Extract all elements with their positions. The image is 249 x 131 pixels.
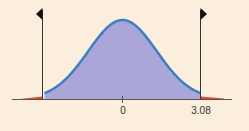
right-arrow-icon [201, 8, 208, 20]
center-area [45, 20, 201, 99]
tick-label-zero: 0 [120, 105, 126, 116]
tick-label-critical: 3.08 [191, 105, 210, 116]
left-arrow-icon [36, 8, 43, 20]
